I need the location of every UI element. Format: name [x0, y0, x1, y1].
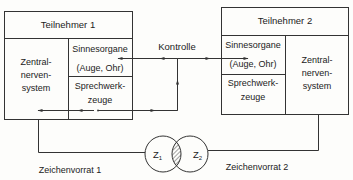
participant-2-title: Teilnehmer 2 — [258, 15, 312, 26]
p2-cns-line2: nerven- — [302, 68, 333, 78]
p1-senses-line1: Sinnesorgane — [72, 44, 128, 54]
p2-cns-line1: Zentral- — [301, 55, 332, 65]
p2-senses-line2: (Auge, Ohr) — [229, 59, 276, 69]
p1-cns-line2: nerven- — [21, 70, 52, 80]
set-z1-label: Z1 — [153, 149, 163, 161]
repertoire-1-label: Zeichenvorrat 1 — [39, 165, 102, 175]
p2-senses-line1: Sinnesorgane — [225, 40, 281, 50]
p2-speech-line2: zeuge — [241, 92, 266, 102]
p1-speech-line1: Sprechwerk- — [75, 81, 126, 91]
p2-speech-line1: Sprechwerk- — [228, 78, 279, 88]
p1-speech-line2: zeuge — [88, 95, 113, 105]
p2-cns-line3: system — [303, 81, 332, 91]
communication-model-diagram: Teilnehmer 1 Zentral- nerven- system Sin… — [0, 0, 353, 180]
control-label: Kontrolle — [158, 41, 196, 52]
p1-cns-line3: system — [22, 83, 51, 93]
set-z2-label: Z2 — [193, 149, 203, 161]
p1-cns-line1: Zentral- — [20, 57, 51, 67]
p1-senses-line2: (Auge, Ohr) — [76, 63, 123, 73]
participant-1-title: Teilnehmer 1 — [41, 19, 95, 30]
repertoire-2-label: Zeichenvorrat 2 — [226, 162, 289, 172]
participant-2-box: Teilnehmer 2 Sinnesorgane (Auge, Ohr) Sp… — [222, 8, 349, 115]
sign-repertoire-venn: Z1 Z2 Zeichenvorrat 1 Zeichenvorrat 2 — [39, 136, 289, 175]
participant-1-box: Teilnehmer 1 Zentral- nerven- system Sin… — [5, 12, 133, 120]
